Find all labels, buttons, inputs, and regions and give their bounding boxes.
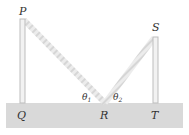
label-q: Q — [17, 109, 26, 122]
pole-pq — [20, 19, 25, 103]
angle-theta1: θ1 — [82, 92, 91, 103]
label-r: R — [99, 109, 108, 122]
angle-theta2: θ2 — [113, 92, 122, 103]
pole-st — [153, 37, 158, 103]
label-s: S — [152, 21, 160, 34]
diagram-canvas: P S Q R T θ1 θ2 — [0, 0, 189, 135]
label-p: P — [18, 5, 27, 18]
beam-p-to-r — [24, 20, 105, 103]
